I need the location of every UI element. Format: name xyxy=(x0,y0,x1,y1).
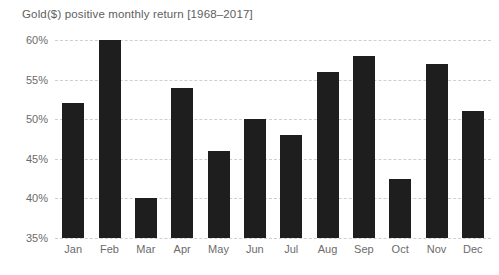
x-tick-label: Feb xyxy=(100,243,119,255)
x-tick-label: Jun xyxy=(246,243,264,255)
x-tick-label: Aug xyxy=(318,243,338,255)
bar-nov xyxy=(426,64,448,238)
bar-feb xyxy=(99,40,121,238)
bar-jan xyxy=(62,103,84,238)
y-tick-label: 60% xyxy=(26,34,48,46)
bar-jul xyxy=(280,135,302,238)
x-tick-label: Nov xyxy=(427,243,447,255)
chart-title: Gold($) positive monthly return [1968–20… xyxy=(22,8,253,20)
gridline xyxy=(55,238,491,239)
bar-mar xyxy=(135,198,157,238)
x-tick-label: Apr xyxy=(174,243,191,255)
y-tick-label: 50% xyxy=(26,113,48,125)
bar-series xyxy=(55,40,491,238)
bar-oct xyxy=(389,179,411,238)
bar-apr xyxy=(171,88,193,238)
x-tick-label: May xyxy=(208,243,229,255)
y-tick-label: 35% xyxy=(26,232,48,244)
bar-dec xyxy=(462,111,484,238)
y-axis: 35%40%45%50%55%60% xyxy=(0,40,48,238)
y-tick-label: 45% xyxy=(26,153,48,165)
x-tick-label: Oct xyxy=(392,243,409,255)
x-tick-label: Jul xyxy=(284,243,298,255)
x-tick-label: Dec xyxy=(463,243,483,255)
bar-aug xyxy=(317,72,339,238)
plot-area xyxy=(55,40,491,238)
x-tick-label: Jan xyxy=(64,243,82,255)
y-tick-label: 40% xyxy=(26,192,48,204)
bar-chart: Gold($) positive monthly return [1968–20… xyxy=(0,0,499,275)
bar-may xyxy=(208,151,230,238)
x-tick-label: Sep xyxy=(354,243,374,255)
bar-sep xyxy=(353,56,375,238)
bar-jun xyxy=(244,119,266,238)
x-tick-label: Mar xyxy=(136,243,155,255)
y-tick-label: 55% xyxy=(26,74,48,86)
x-axis: JanFebMarAprMayJunJulAugSepOctNovDec xyxy=(55,243,491,263)
